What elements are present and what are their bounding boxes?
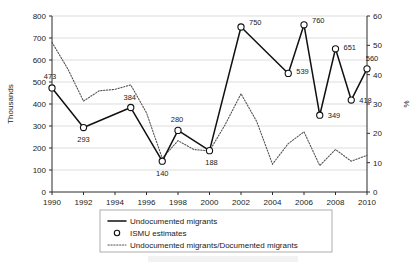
y-axis-title: Thousands xyxy=(6,84,15,124)
data-point-label: 384 xyxy=(123,93,136,102)
y-axis-tick-label: 300 xyxy=(33,122,47,131)
ismu-estimate-marker xyxy=(317,112,323,118)
ismu-estimate-marker xyxy=(206,148,212,154)
ismu-estimate-marker xyxy=(128,104,134,110)
data-point-label: 651 xyxy=(344,43,357,52)
data-point-label: 293 xyxy=(77,135,90,144)
data-point-label: 473 xyxy=(44,72,57,81)
y-axis: 0100200300400500600700800 xyxy=(33,12,52,197)
legend-item-label: Undocumented migrants/Documented migrant… xyxy=(130,241,298,250)
ismu-estimate-marker xyxy=(301,22,307,28)
gridlines xyxy=(52,16,367,170)
data-point-label: 539 xyxy=(296,67,309,76)
ismu-estimate-marker xyxy=(285,70,291,76)
y-axis-tick-label: 200 xyxy=(33,144,47,153)
series-solid-undocumented xyxy=(52,25,367,161)
y2-axis-tick-label: 30 xyxy=(373,100,382,109)
ismu-estimate-marker xyxy=(159,158,165,164)
ismu-estimate-marker xyxy=(238,24,244,30)
x-axis-tick-label: 1994 xyxy=(106,198,124,207)
x-axis-tick-label: 2006 xyxy=(295,198,313,207)
ismu-estimate-marker xyxy=(80,124,86,130)
ismu-estimate-marker xyxy=(175,127,181,133)
x-axis-tick-label: 2002 xyxy=(232,198,250,207)
data-point-label: 560 xyxy=(366,54,379,63)
data-point-label: 760 xyxy=(312,16,325,25)
data-point-label: 750 xyxy=(249,18,262,27)
y2-axis-tick-label: 20 xyxy=(373,129,382,138)
x-axis-tick-label: 2004 xyxy=(264,198,282,207)
y-axis-tick-label: 700 xyxy=(33,34,47,43)
chart-canvas: 0100200300400500600700800 0102030405060 … xyxy=(0,0,420,262)
caption-strip xyxy=(148,256,298,262)
ismu-estimate-marker xyxy=(49,85,55,91)
chart-figure: 0100200300400500600700800 0102030405060 … xyxy=(0,0,420,262)
data-point-label: 418 xyxy=(359,96,372,105)
y2-axis-tick-label: 60 xyxy=(373,12,382,21)
legend-item-label: ISMU estimates xyxy=(130,229,186,238)
x-axis-tick-label: 1990 xyxy=(43,198,61,207)
undocumented-migrants-line xyxy=(52,25,367,161)
legend-open-circle-icon xyxy=(114,230,119,235)
y2-axis-tick-label: 40 xyxy=(373,71,382,80)
y2-axis-tick-label: 50 xyxy=(373,41,382,50)
y-axis-tick-label: 600 xyxy=(33,56,47,65)
data-point-label: 280 xyxy=(171,115,184,124)
x-axis-tick-label: 2010 xyxy=(358,198,376,207)
data-point-label: 140 xyxy=(156,169,169,178)
y-axis-tick-label: 400 xyxy=(33,100,47,109)
legend: Undocumented migrantsISMU estimatesUndoc… xyxy=(100,210,332,252)
x-axis-tick-label: 2000 xyxy=(201,198,219,207)
ismu-estimate-marker xyxy=(364,66,370,72)
x-axis-tick-label: 1998 xyxy=(169,198,187,207)
y2-axis-tick-label: 0 xyxy=(373,188,378,197)
x-axis-tick-label: 1992 xyxy=(75,198,93,207)
series-markers-ismu xyxy=(49,22,370,165)
data-point-label: 188 xyxy=(205,158,218,167)
y-axis-tick-label: 800 xyxy=(33,12,47,21)
x-axis-tick-label: 2008 xyxy=(327,198,345,207)
y-axis-tick-label: 0 xyxy=(42,188,47,197)
y2-axis-tick-label: 10 xyxy=(373,159,382,168)
ismu-estimate-marker xyxy=(332,46,338,52)
ismu-estimate-marker xyxy=(348,97,354,103)
y2-axis-title: % xyxy=(402,100,411,107)
y-axis-tick-label: 100 xyxy=(33,166,47,175)
x-axis: 1990199219941996199820002002200420062008… xyxy=(43,192,376,207)
x-axis-tick-label: 1996 xyxy=(138,198,156,207)
legend-item-label: Undocumented migrants xyxy=(130,217,217,226)
data-point-label: 349 xyxy=(328,111,341,120)
